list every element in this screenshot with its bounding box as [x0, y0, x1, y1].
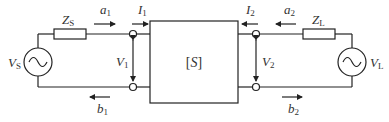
current-2-label: I2 — [245, 2, 255, 18]
source-impedance-label: ZS — [62, 12, 74, 28]
incident-wave-2-label: a2 — [284, 2, 295, 18]
port-1-terminal-top — [130, 31, 137, 38]
current-1-label: I1 — [137, 2, 147, 18]
port-2-terminal-top — [253, 31, 260, 38]
source-impedance-resistor — [54, 29, 86, 39]
port-voltage-2-label: V2 — [262, 54, 274, 70]
network-label: [S] — [186, 55, 202, 70]
load-impedance-resistor — [303, 29, 335, 39]
port-voltage-1-label: V1 — [116, 54, 128, 70]
port-2-terminal-bottom — [253, 84, 260, 91]
sine-icon — [29, 58, 47, 67]
reflected-wave-2-label: b2 — [288, 101, 299, 117]
load-circuit — [260, 29, 367, 87]
load-impedance-label: ZL — [312, 12, 325, 28]
sine-icon — [343, 58, 361, 67]
incident-wave-1-label: a1 — [100, 2, 111, 18]
source-voltage-label: VS — [8, 55, 21, 71]
two-port-diagram: VS ZS a1 b1 I1 V1 [S] V2 I2 a2 b — [0, 0, 389, 122]
source-circuit — [24, 29, 130, 87]
port-1-terminal-bottom — [130, 84, 137, 91]
load-voltage-label: VL — [370, 55, 383, 71]
reflected-wave-1-label: b1 — [97, 101, 108, 117]
